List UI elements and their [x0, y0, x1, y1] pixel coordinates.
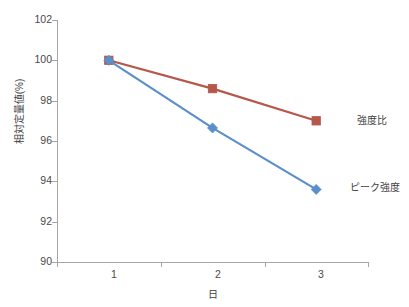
chart-container: 相対定量値(%) 90 92 94 96 98 100 102 1 2 3 日 …: [0, 0, 409, 307]
series-label-peak-intensity: ピーク強度: [350, 179, 400, 194]
series-label-intensity-ratio: 強度比: [357, 112, 387, 127]
data-point-0-2: [312, 117, 320, 125]
plot-area: [0, 0, 409, 307]
data-point-1-2: [311, 184, 321, 194]
data-point-0-1: [208, 84, 216, 92]
series-group: [104, 55, 321, 194]
